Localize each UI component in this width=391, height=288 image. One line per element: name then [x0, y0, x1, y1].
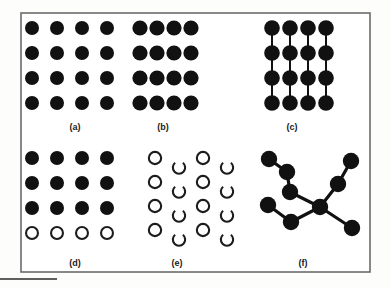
filled-circle: [132, 20, 147, 35]
node-lower-left: [283, 214, 299, 230]
filled-circle: [100, 46, 114, 60]
filled-circle: [149, 95, 164, 110]
figure-canvas: [0, 0, 391, 288]
filled-circle: [75, 46, 89, 60]
filled-circle: [166, 45, 181, 60]
filled-circle: [75, 201, 89, 215]
panel-label-d: (d): [55, 258, 95, 268]
filled-circle: [149, 20, 164, 35]
filled-circle: [183, 95, 198, 110]
node-right-chain: [330, 176, 346, 192]
filled-circle: [25, 176, 39, 190]
filled-circle: [25, 96, 39, 110]
filled-circle: [132, 70, 147, 85]
filled-circle: [100, 96, 114, 110]
filled-circle: [166, 95, 181, 110]
filled-circle: [75, 176, 89, 190]
filled-circle: [300, 20, 316, 36]
filled-circle: [50, 96, 64, 110]
filled-circle: [25, 46, 39, 60]
filled-circle: [75, 96, 89, 110]
filled-circle: [100, 71, 114, 85]
filled-circle: [318, 95, 334, 111]
filled-circle: [75, 151, 89, 165]
filled-circle: [166, 20, 181, 35]
filled-circle: [282, 70, 298, 86]
node-left: [260, 197, 276, 213]
node-lower-right: [344, 220, 360, 236]
filled-circle: [50, 201, 64, 215]
filled-circle: [282, 95, 298, 111]
filled-circle: [100, 201, 114, 215]
filled-circle: [100, 21, 114, 35]
filled-circle: [50, 21, 64, 35]
node-top-right: [343, 153, 359, 169]
filled-circle: [25, 21, 39, 35]
filled-circle: [183, 45, 198, 60]
node-mid-chain: [282, 184, 298, 200]
filled-circle: [149, 70, 164, 85]
filled-circle: [183, 70, 198, 85]
filled-circle: [300, 45, 316, 61]
filled-circle: [300, 70, 316, 86]
panel-label-e: (e): [157, 258, 197, 268]
filled-circle: [132, 45, 147, 60]
filled-circle: [264, 45, 280, 61]
filled-circle: [183, 20, 198, 35]
panel-label-b: (b): [143, 122, 183, 132]
filled-circle: [264, 20, 280, 36]
figure-container: (a)(b)(c)(d)(e)(f): [0, 0, 391, 288]
filled-circle: [100, 151, 114, 165]
filled-circle: [166, 70, 181, 85]
filled-circle: [25, 71, 39, 85]
filled-circle: [264, 70, 280, 86]
filled-circle: [282, 45, 298, 61]
filled-circle: [264, 95, 280, 111]
filled-circle: [149, 45, 164, 60]
filled-circle: [50, 46, 64, 60]
filled-circle: [132, 95, 147, 110]
filled-circle: [100, 176, 114, 190]
filled-circle: [282, 20, 298, 36]
filled-circle: [318, 45, 334, 61]
filled-circle: [75, 71, 89, 85]
panel-label-f: (f): [283, 258, 323, 268]
filled-circle: [318, 70, 334, 86]
node-center-hub: [312, 199, 328, 215]
node-top-left: [261, 151, 277, 167]
filled-circle: [75, 21, 89, 35]
filled-circle: [50, 71, 64, 85]
filled-circle: [25, 151, 39, 165]
filled-circle: [25, 201, 39, 215]
node-upper-chain: [279, 164, 295, 180]
panel-label-a: (a): [55, 122, 95, 132]
filled-circle: [50, 151, 64, 165]
filled-circle: [318, 20, 334, 36]
filled-circle: [300, 95, 316, 111]
panel-label-c: (c): [272, 122, 312, 132]
filled-circle: [50, 176, 64, 190]
